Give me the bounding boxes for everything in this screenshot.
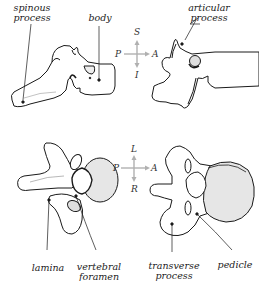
label-articular-process: articular process bbox=[185, 3, 233, 23]
label-lamina: lamina bbox=[30, 263, 66, 273]
label-spinous-line2: process bbox=[12, 13, 52, 23]
compass-top-anterior: A bbox=[152, 50, 159, 59]
label-vertebral-foramen: vertebral foramen bbox=[76, 262, 122, 281]
superior-view-right bbox=[150, 146, 254, 252]
compass-bottom-anterior: A bbox=[151, 164, 158, 173]
compass-top-posterior: P bbox=[115, 50, 121, 59]
label-foramen-line2: foramen bbox=[76, 272, 122, 281]
orientation-compass-top bbox=[124, 40, 150, 68]
superior-view-left bbox=[18, 143, 118, 250]
label-articular-line2: process bbox=[185, 13, 233, 23]
orientation-compass-bottom bbox=[121, 155, 150, 182]
label-transverse-line2: process bbox=[148, 271, 200, 281]
label-transverse-process: transverse process bbox=[148, 261, 200, 281]
compass-bottom-posterior: P bbox=[113, 164, 119, 173]
lateral-view-left bbox=[11, 24, 115, 107]
compass-bottom-left: L bbox=[131, 145, 137, 154]
compass-bottom-right: R bbox=[131, 185, 138, 194]
lateral-view-right bbox=[152, 18, 259, 108]
label-pedicle: pedicle bbox=[215, 260, 255, 270]
label-body: body bbox=[86, 13, 114, 23]
vertebra-diagram: spinous process body articular process l… bbox=[0, 0, 259, 281]
compass-top-inferior: I bbox=[135, 71, 139, 80]
compass-top-superior: S bbox=[134, 28, 140, 37]
diagram-drawing bbox=[0, 0, 259, 281]
label-spinous-process: spinous process bbox=[12, 3, 52, 23]
